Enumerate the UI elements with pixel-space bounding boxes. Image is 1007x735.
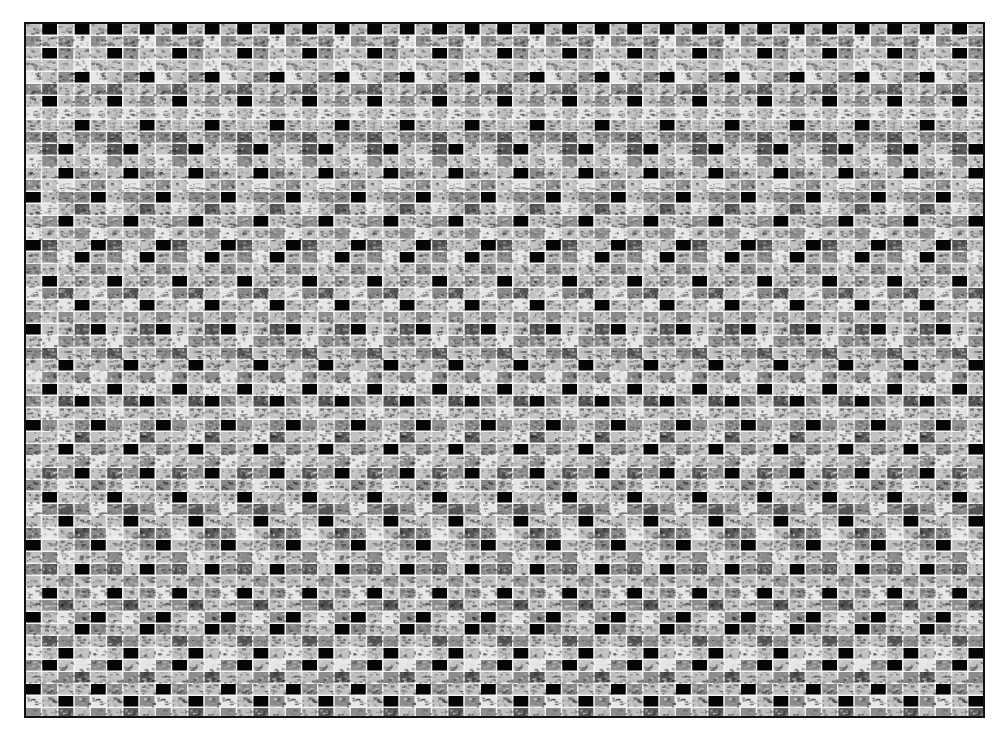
image-mosaic [24, 22, 985, 718]
mosaic-canvas [26, 24, 983, 716]
